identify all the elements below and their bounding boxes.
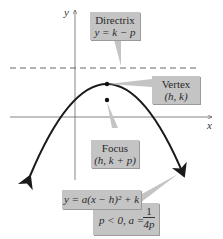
- fraction-denominator: 4p: [143, 218, 155, 230]
- vertex-title: Vertex: [152, 78, 200, 90]
- x-axis-label: x: [207, 119, 212, 131]
- focus-title: Focus: [91, 142, 139, 154]
- focus-point: [105, 98, 109, 102]
- fraction-numerator: 1: [143, 205, 155, 218]
- equation-text: y = a(x − h)² + k: [62, 193, 141, 205]
- directrix-pointer: [113, 36, 121, 66]
- focus-label: Focus (h, k + p): [91, 140, 139, 168]
- focus-coords: (h, k + p): [91, 154, 139, 166]
- directrix-label: Directrix y = k − p: [90, 12, 140, 40]
- equation-pointer: [140, 174, 178, 203]
- directrix-title: Directrix: [90, 14, 140, 26]
- directrix-equation: y = k − p: [90, 26, 140, 38]
- vertex-label: Vertex (h, k): [152, 76, 200, 104]
- condition-text: p < 0, a =: [99, 214, 144, 226]
- equation-label: y = a(x − h)² + k: [62, 190, 141, 209]
- focus-pointer: [107, 102, 118, 128]
- fraction: 1 4p: [143, 205, 155, 230]
- vertex-coords: (h, k): [152, 90, 200, 102]
- y-axis-label: y: [64, 6, 69, 18]
